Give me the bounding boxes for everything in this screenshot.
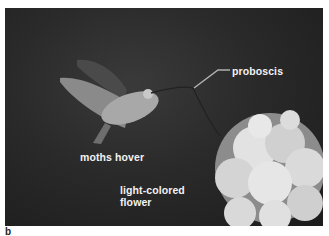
proboscis	[151, 87, 220, 136]
moth-head	[143, 89, 153, 99]
flower-cluster	[215, 110, 323, 226]
proboscis-leader-line	[194, 70, 230, 88]
flower-label: light-colored flower	[120, 184, 190, 208]
moth-flower-photo: proboscis moths hover light-colored flow…	[5, 8, 323, 226]
moth-tail	[93, 123, 111, 144]
panel-letter: b	[5, 226, 11, 236]
proboscis-label: proboscis	[232, 65, 283, 77]
moths-hover-label: moths hover	[80, 151, 144, 163]
